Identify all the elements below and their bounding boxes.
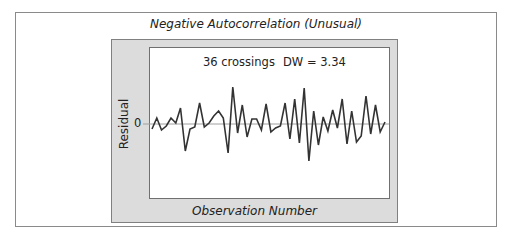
residual-plot [0,0,514,243]
